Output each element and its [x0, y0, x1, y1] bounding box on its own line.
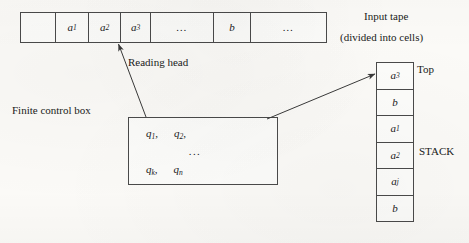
stack-cell: a1: [377, 116, 413, 143]
stack-cell: b: [377, 90, 413, 117]
tape-cell: [21, 13, 56, 42]
input-tape: a1 a2 a3 … b …: [20, 12, 327, 43]
diagram-canvas: a1 a2 a3 … b … Input tape (divided into …: [0, 0, 469, 243]
control-states-row-2: qk,qn: [146, 163, 183, 177]
stack: a3 b a1 a2 aj b: [376, 62, 414, 222]
stack-cell: b: [377, 196, 413, 222]
reading-head-arrow: [119, 44, 147, 117]
stack-top-label: Top: [417, 63, 434, 76]
stack-cell: a3: [377, 63, 413, 90]
tape-cell-ellipsis: …: [151, 13, 214, 42]
input-tape-label: Input tape: [364, 10, 408, 23]
tape-cell: a1: [56, 13, 89, 42]
input-tape-sublabel: (divided into cells): [340, 31, 423, 44]
control-states-ellipsis: ...: [189, 145, 201, 157]
tape-cell: a2: [89, 13, 121, 42]
tape-cell-ellipsis: …: [251, 13, 326, 42]
stack-label: STACK: [419, 145, 454, 158]
reading-head-label: Reading head: [128, 56, 188, 69]
tape-cell: b: [214, 13, 251, 42]
stack-cell: a2: [377, 143, 413, 170]
control-states-row-1: q1,q2,: [146, 127, 186, 141]
finite-control-box-label: Finite control box: [12, 104, 91, 117]
stack-access-arrow: [267, 74, 375, 119]
finite-control-box: q1,q2, ... qk,qn: [128, 117, 278, 185]
tape-cell: a3: [121, 13, 151, 42]
stack-cell: aj: [377, 169, 413, 196]
